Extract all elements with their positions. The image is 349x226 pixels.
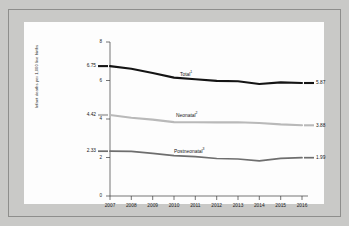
series-label-total-footnote: 1 [190, 70, 192, 74]
end-value-neonatal: 3.88 [316, 123, 340, 128]
start-value-neonatal: 4.42 [74, 112, 96, 117]
start-value-total: 6.75 [74, 63, 96, 68]
end-value-total: 5.87 [316, 80, 340, 85]
series-label-neonatal-text: Neonatal [176, 113, 196, 118]
chart-panel: Infant deaths per 1,000 live births [24, 22, 324, 204]
series-label-neonatal-footnote: 2 [196, 111, 198, 115]
axes [106, 42, 308, 200]
figure-frame: Infant deaths per 1,000 live births [0, 0, 349, 226]
series-line-neonatal [110, 115, 302, 125]
series-label-neonatal: Neonatal2 [176, 111, 197, 118]
start-value-postneonatal: 2.33 [74, 148, 96, 153]
plot-area: Infant deaths per 1,000 live births [24, 22, 324, 204]
series-label-postneonatal-text: Postneonatal [174, 149, 203, 154]
chart-svg [24, 22, 324, 204]
x-axis-ticks [110, 196, 302, 200]
end-value-postneonatal: 1.99 [316, 155, 340, 160]
y-tick-label-2: 2 [88, 155, 102, 160]
y-tick-label-6: 6 [88, 78, 102, 83]
series-label-total: Total1 [180, 70, 192, 77]
x-tick-label-2016: 2016 [289, 203, 315, 208]
series-label-total-text: Total [180, 72, 190, 77]
series-line-postneonatal [110, 151, 302, 161]
series-line-total [110, 66, 302, 84]
series-lines [110, 66, 302, 161]
series-label-postneonatal: Postneonatal3 [174, 147, 204, 154]
y-tick-label-0: 0 [88, 193, 102, 198]
series-label-postneonatal-footnote: 3 [203, 147, 205, 151]
y-tick-label-8: 8 [88, 39, 102, 44]
